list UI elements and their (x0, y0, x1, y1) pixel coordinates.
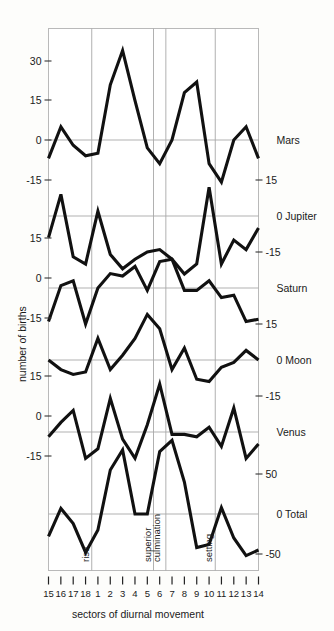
left-axis-label: 15 (30, 232, 42, 244)
series-label-jupiter: 0 Jupiter (277, 210, 318, 222)
right-axis-label: -15 (266, 246, 281, 258)
x-tick-label: 4 (132, 588, 137, 599)
x-tick-label: 16 (56, 588, 67, 599)
series-label-mars: Mars (277, 134, 300, 146)
x-tick-label: 6 (157, 588, 162, 599)
x-tick-label: 17 (68, 588, 79, 599)
left-axis-label: 30 (30, 55, 42, 67)
left-axis-label: 0 (36, 134, 42, 146)
x-tick-label: 14 (253, 588, 264, 599)
x-tick-label: 8 (182, 588, 187, 599)
annotation-rise: rise (80, 547, 91, 562)
x-tick-label: 3 (120, 588, 125, 599)
x-axis-title: sectors of diurnal movement (72, 608, 204, 620)
series-label-total: 0 Total (277, 508, 308, 520)
right-axis-label: 50 (266, 468, 278, 480)
x-tick-label: 7 (169, 588, 174, 599)
x-tick-label: 12 (229, 588, 240, 599)
right-axis-label: 15 (266, 318, 278, 330)
series-label-moon: 0 Moon (277, 354, 312, 366)
x-tick-label: 9 (194, 588, 199, 599)
left-axis-label: -15 (26, 174, 41, 186)
plot-area: 30150-15150-15150-15Mars150 Jupiter-15Sa… (0, 0, 334, 631)
annotation-culmination: culmination (151, 514, 162, 562)
figure-root: number of births 30150-15150-15150-15Mar… (0, 0, 334, 631)
right-axis-label: 15 (266, 174, 278, 186)
x-tick-label: 18 (80, 588, 91, 599)
series-label-saturn: Saturn (277, 282, 308, 294)
x-tick-label: 15 (43, 588, 54, 599)
x-tick-label: 5 (145, 588, 150, 599)
x-tick-label: 2 (108, 588, 113, 599)
left-axis-label: -15 (26, 450, 41, 462)
right-axis-label: -15 (266, 390, 281, 402)
left-axis-label: 15 (30, 370, 42, 382)
left-axis-label: 0 (36, 410, 42, 422)
left-axis-label: 0 (36, 272, 42, 284)
x-tick-label: 11 (217, 588, 227, 599)
left-axis-label: -15 (26, 312, 41, 324)
x-tick-label: 13 (241, 588, 252, 599)
left-axis-label: 15 (30, 94, 42, 106)
series-label-venus: Venus (277, 426, 306, 438)
annotation-setting: setting (203, 534, 214, 562)
x-tick-label: 10 (204, 588, 215, 599)
right-axis-label: -50 (266, 548, 281, 560)
x-tick-label: 1 (95, 588, 100, 599)
